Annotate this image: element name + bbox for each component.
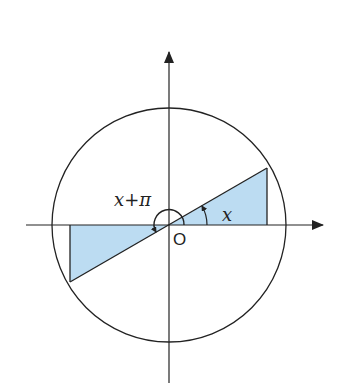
origin-label: O — [173, 230, 186, 249]
unit-circle-diagram: x x+π O — [0, 0, 337, 385]
angle-x-plus-pi-label: x+π — [114, 189, 152, 210]
angle-x-label: x — [222, 204, 232, 225]
